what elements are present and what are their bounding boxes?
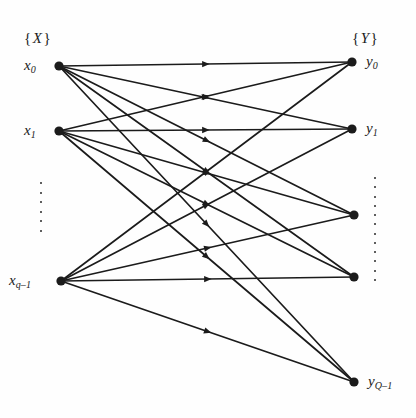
ellipsis-dot bbox=[40, 182, 42, 184]
ellipsis-dot bbox=[40, 201, 42, 203]
ellipsis-dot bbox=[374, 186, 376, 188]
node-yQm1 bbox=[349, 377, 358, 386]
node-x1 bbox=[54, 126, 63, 135]
ellipsis-dot bbox=[374, 279, 376, 281]
arrowhead-xqm1-to-yQm1 bbox=[203, 327, 212, 335]
ellipsis-dot bbox=[374, 260, 376, 262]
ellipsis-dot bbox=[374, 205, 376, 207]
ellipsis-dot bbox=[374, 196, 376, 198]
ellipsis-dot bbox=[374, 233, 376, 235]
ellipsis-dot bbox=[374, 214, 376, 216]
ellipsis-dot bbox=[40, 220, 42, 222]
arrowhead-x0-to-yA bbox=[202, 136, 212, 145]
ellipsis-dot bbox=[374, 242, 376, 244]
set-label-y: {Y} bbox=[352, 30, 378, 47]
node-label-xqm1: xq–1 bbox=[9, 272, 31, 289]
arrowhead-x1-to-y1 bbox=[202, 127, 210, 133]
ellipsis-dot bbox=[40, 230, 42, 232]
bipartite-graph-figure: {X} {Y} x0x1xq–1y0y1yQ–1 bbox=[0, 0, 416, 418]
node-label-x0: x0 bbox=[24, 57, 36, 74]
ellipsis-dot bbox=[40, 211, 42, 213]
graph-canvas bbox=[0, 0, 416, 418]
ellipsis-dot bbox=[374, 251, 376, 253]
ellipsis-dot bbox=[374, 270, 376, 272]
arrowhead-xqm1-to-yB bbox=[204, 276, 212, 282]
left-vdots bbox=[40, 182, 42, 232]
arrowhead-layer bbox=[201, 61, 212, 336]
node-x0 bbox=[54, 61, 63, 70]
set-label-x: {X} bbox=[24, 30, 51, 47]
ellipsis-dot bbox=[374, 223, 376, 225]
node-yA bbox=[349, 210, 358, 219]
node-y0 bbox=[347, 57, 356, 66]
ellipsis-dot bbox=[40, 192, 42, 194]
node-label-y0: y0 bbox=[366, 53, 378, 70]
node-xqm1 bbox=[56, 276, 65, 285]
right-vdots bbox=[374, 177, 376, 281]
node-label-yQm1: yQ–1 bbox=[368, 373, 393, 390]
node-y1 bbox=[347, 124, 356, 133]
node-label-x1: x1 bbox=[24, 122, 36, 139]
node-yB bbox=[349, 272, 358, 281]
arrowhead-x0-to-y0 bbox=[202, 61, 210, 67]
ellipsis-dot bbox=[374, 177, 376, 179]
node-label-y1: y1 bbox=[366, 120, 378, 137]
